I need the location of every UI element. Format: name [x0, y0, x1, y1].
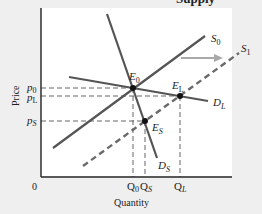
- arrow-head-icon: [214, 54, 223, 62]
- diagram-canvas: Supply S0 S1 DL DS: [0, 0, 262, 214]
- origin-label: 0: [32, 181, 37, 192]
- tick-ps: pS: [26, 114, 37, 128]
- supply-shift-diagram: Supply S0 S1 DL DS: [0, 0, 262, 214]
- point-es: [142, 118, 148, 124]
- y-axis-label: Price: [10, 85, 21, 106]
- shift-arrow: [181, 54, 223, 62]
- tick-ql: QL: [174, 180, 187, 194]
- title-fragment: Supply: [176, 0, 216, 6]
- tick-q0: Q0: [127, 180, 139, 194]
- label-dl: DL: [212, 96, 226, 111]
- label-s0: S0: [211, 32, 221, 47]
- point-e0: [130, 85, 136, 91]
- x-axis-label: Quantity: [114, 197, 149, 208]
- label-ds: DS: [157, 159, 170, 174]
- label-el: EL: [171, 79, 184, 94]
- tick-qs: QS: [140, 180, 152, 194]
- label-s1: S1: [241, 42, 251, 57]
- label-es: ES: [151, 121, 163, 136]
